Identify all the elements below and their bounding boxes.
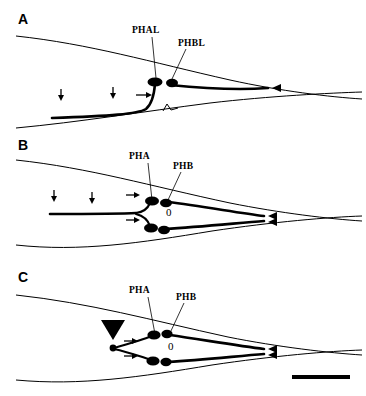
figure-canvas: A PHAL PHBL xyxy=(0,0,366,396)
panel-a-label-phbl: PHBL xyxy=(178,38,205,48)
panel-b-ventral-posterior-axon xyxy=(165,221,264,229)
panel-c-leader-phb xyxy=(170,303,184,333)
panel-b-dorsal-posterior-axon xyxy=(168,202,264,216)
panel-a: A PHAL PHBL xyxy=(16,11,362,128)
panel-c-dorsal-posterior-axon xyxy=(170,335,264,349)
panel-c-soma-ventral-2 xyxy=(160,358,171,366)
panel-b-label-phb: PHB xyxy=(173,161,194,171)
panel-c-solid-triangle-marker xyxy=(101,320,125,340)
panel-c-label-phb: PHB xyxy=(176,292,197,302)
panel-b-soma-ventral-1 xyxy=(144,223,158,232)
panel-a-arrowhead xyxy=(272,84,281,92)
panel-c-soma-pha xyxy=(147,330,160,339)
panel-a-down-arrow-2 xyxy=(110,87,116,99)
panel-b-zero-mark: 0 xyxy=(166,206,172,218)
panel-c-upper-body-wall xyxy=(16,295,362,355)
panel-c-leader-pha xyxy=(148,297,155,334)
panel-a-soma-phal xyxy=(148,77,163,86)
panel-b-down-arrow-1 xyxy=(51,190,57,202)
panel-b-arrowhead-ventral xyxy=(268,218,277,226)
panel-c-branch-origin xyxy=(110,345,117,352)
panel-c-letter: C xyxy=(18,269,28,285)
panel-b-soma-pha xyxy=(145,196,159,205)
panel-b-right-arrow-1 xyxy=(126,192,140,198)
panel-b-soma-ventral-2 xyxy=(158,226,170,234)
panel-b-leader-pha xyxy=(148,163,152,200)
panel-b-down-arrow-2 xyxy=(89,192,95,204)
panel-b: B PHA PHB 0 xyxy=(16,137,362,247)
panel-c-soma-phb xyxy=(161,330,172,338)
panel-c-zero-mark: 0 xyxy=(168,340,174,352)
panel-b-right-arrow-2 xyxy=(126,217,140,223)
panel-a-lower-body-wall xyxy=(16,92,362,128)
panel-b-anterior-trunk xyxy=(50,213,136,214)
panel-b-label-pha: PHA xyxy=(129,151,150,161)
panel-c-ventral-posterior-axon xyxy=(168,354,264,362)
panel-c: C PHA PHB 0 xyxy=(16,269,362,382)
panel-a-down-arrow-1 xyxy=(58,89,64,101)
panel-b-letter: B xyxy=(18,137,28,153)
panel-b-lower-body-wall xyxy=(16,216,362,247)
panel-c-label-pha: PHA xyxy=(129,285,150,295)
panel-a-right-arrow xyxy=(136,92,152,98)
panel-a-leader-phal xyxy=(152,37,156,78)
panel-b-leader-phb xyxy=(168,172,181,200)
panel-a-soma-phbl xyxy=(166,79,178,87)
panel-a-leader-phbl xyxy=(172,49,186,79)
panel-a-posterior-axon xyxy=(170,85,268,89)
panel-a-letter: A xyxy=(18,11,28,27)
panel-c-soma-ventral-1 xyxy=(146,356,159,365)
scale-bar xyxy=(292,375,350,379)
panel-a-label-phal: PHAL xyxy=(132,25,160,35)
figure-svg: A PHAL PHBL xyxy=(0,0,366,396)
